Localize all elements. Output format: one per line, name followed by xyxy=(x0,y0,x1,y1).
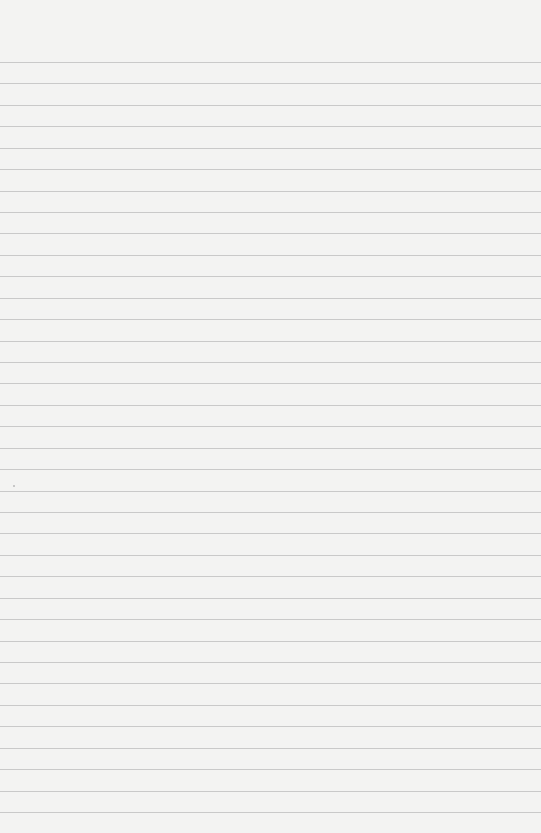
ruled-line xyxy=(0,83,541,84)
ruled-line xyxy=(0,812,541,813)
ruled-line xyxy=(0,276,541,277)
ruled-line xyxy=(0,62,541,63)
ruled-line xyxy=(0,598,541,599)
ruled-line xyxy=(0,255,541,256)
ruled-line xyxy=(0,426,541,427)
ruled-line xyxy=(0,748,541,749)
ruled-line xyxy=(0,533,541,534)
ruled-line xyxy=(0,298,541,299)
ruled-line xyxy=(0,212,541,213)
ruled-line xyxy=(0,448,541,449)
ruled-line xyxy=(0,683,541,684)
ruled-line xyxy=(0,705,541,706)
ruled-line xyxy=(0,169,541,170)
ruled-line xyxy=(0,126,541,127)
ruled-line xyxy=(0,469,541,470)
ruled-line xyxy=(0,769,541,770)
ruled-line xyxy=(0,491,541,492)
ruled-line xyxy=(0,662,541,663)
ruled-line xyxy=(0,362,541,363)
ruled-line xyxy=(0,341,541,342)
ruled-line xyxy=(0,405,541,406)
ruled-paper xyxy=(0,0,541,833)
ruled-line xyxy=(0,319,541,320)
ruled-line xyxy=(0,576,541,577)
ruled-line xyxy=(0,148,541,149)
ruled-line xyxy=(0,512,541,513)
ruled-line xyxy=(0,726,541,727)
ruled-line xyxy=(0,233,541,234)
ruled-line xyxy=(0,191,541,192)
ruled-line xyxy=(0,105,541,106)
ruled-line xyxy=(0,383,541,384)
ruled-line xyxy=(0,641,541,642)
ruled-line xyxy=(0,555,541,556)
ruled-line xyxy=(0,791,541,792)
ruled-line xyxy=(0,619,541,620)
speck xyxy=(13,485,15,487)
